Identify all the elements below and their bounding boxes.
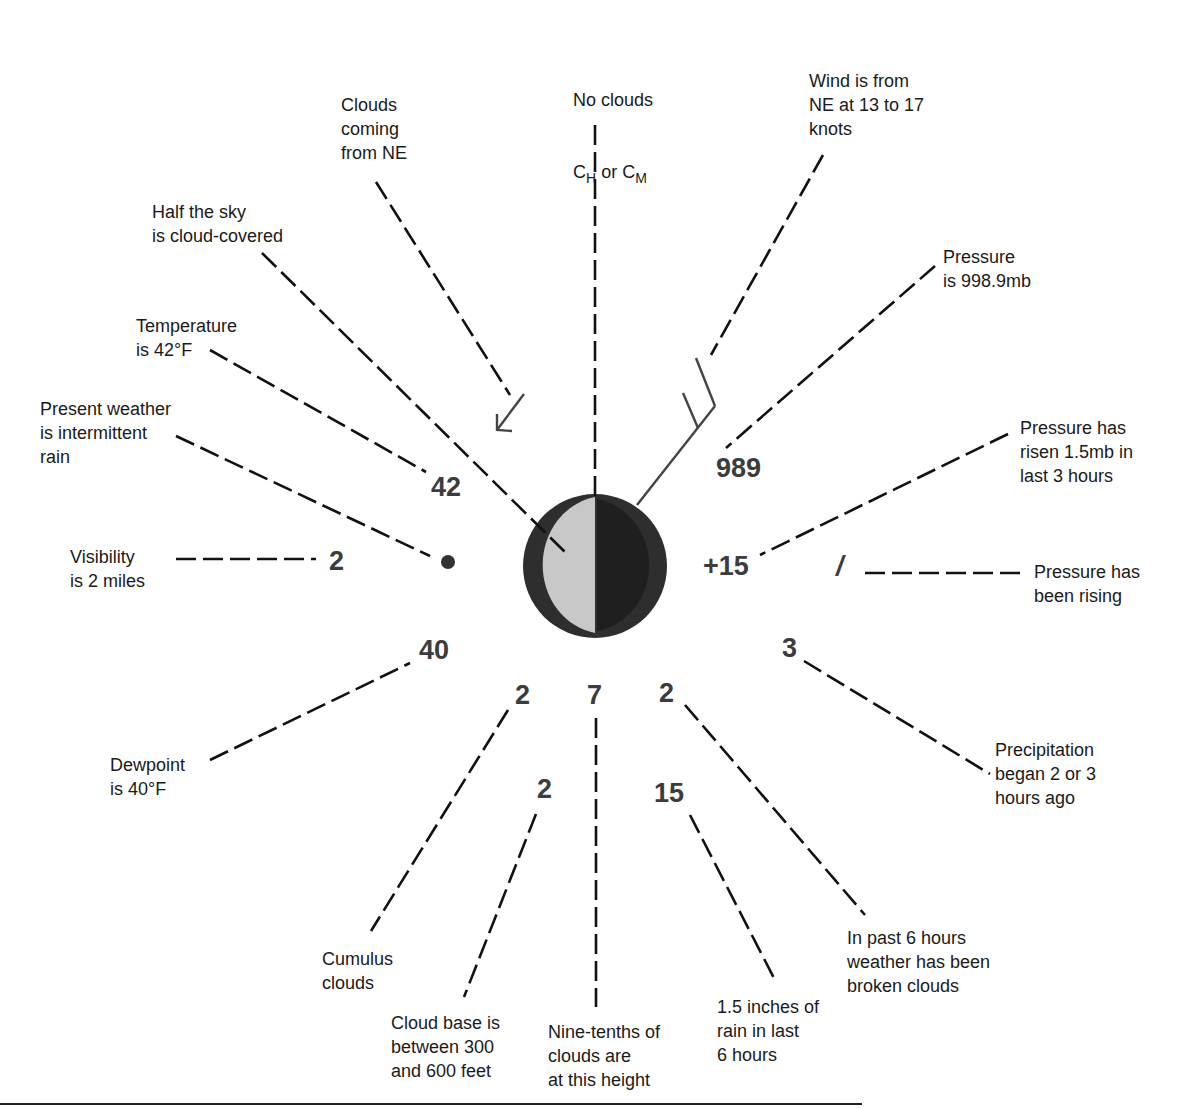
- label-pressure-risen: Pressure has risen 1.5mb in last 3 hours: [1020, 416, 1133, 488]
- c-high: C: [573, 162, 586, 182]
- no-clouds-line1: No clouds: [573, 88, 653, 112]
- leader-past-weather: [685, 705, 865, 915]
- no-clouds-line2: CH or CM: [573, 160, 653, 190]
- leader-precip-began: [804, 661, 990, 774]
- leader-rain-amount: [690, 815, 776, 982]
- value-cloud-amount: 7: [587, 680, 602, 710]
- leader-cloud-base: [464, 814, 536, 997]
- label-half-sky: Half the sky is cloud-covered: [152, 200, 283, 248]
- value-temperature: 42: [431, 472, 461, 502]
- leader-wind: [711, 155, 823, 355]
- label-precip-began: Precipitation began 2 or 3 hours ago: [995, 738, 1096, 810]
- label-present-weather: Present weather is intermittent rain: [40, 397, 171, 469]
- leader-temperature: [210, 350, 426, 472]
- leader-clouds-from: [376, 182, 510, 395]
- sub-h: H: [586, 170, 596, 186]
- wind-barb-icon: [637, 358, 715, 505]
- label-past-weather: In past 6 hours weather has been broken …: [847, 926, 990, 998]
- label-pressure-rising: Pressure has been rising: [1034, 560, 1140, 608]
- value-dewpoint: 40: [419, 635, 449, 665]
- label-cloud-base: Cloud base is between 300 and 600 feet: [391, 1011, 500, 1083]
- leader-pressure-risen: [760, 434, 1008, 555]
- leader-present-weather: [176, 436, 430, 556]
- label-no-clouds: No clouds CH or CM: [573, 40, 653, 214]
- or-text: or: [596, 162, 622, 182]
- leader-dewpoint: [210, 663, 410, 760]
- value-cloud-base: 2: [537, 774, 552, 804]
- leader-pressure: [726, 266, 935, 448]
- value-past-weather: 2: [659, 678, 674, 708]
- label-visibility: Visibility is 2 miles: [70, 545, 145, 593]
- label-rain-amount: 1.5 inches of rain in last 6 hours: [717, 995, 819, 1067]
- c-middle: C: [622, 162, 635, 182]
- value-pressure-change: +15: [703, 551, 749, 581]
- label-temperature: Temperature is 42°F: [136, 314, 237, 362]
- label-clouds-from: Clouds coming from NE: [341, 93, 407, 165]
- cloud-direction-arrow-icon: [497, 394, 524, 431]
- leader-cumulus: [371, 710, 508, 931]
- value-precip-began: 3: [782, 633, 797, 663]
- station-circle: [523, 494, 667, 638]
- label-nine-tenths: Nine-tenths of clouds are at this height: [548, 1020, 660, 1092]
- value-pressure-tendency: /: [836, 551, 844, 581]
- label-wind: Wind is from NE at 13 to 17 knots: [809, 69, 924, 141]
- rain-dot-icon: [441, 555, 455, 569]
- value-low-cloud-type: 2: [515, 680, 530, 710]
- value-visibility: 2: [329, 546, 344, 576]
- label-dewpoint: Dewpoint is 40°F: [110, 753, 185, 801]
- label-cumulus: Cumulus clouds: [322, 947, 393, 995]
- label-pressure: Pressure is 998.9mb: [943, 245, 1031, 293]
- value-precip-amount: 15: [654, 778, 684, 808]
- sub-m: M: [635, 170, 647, 186]
- value-pressure: 989: [716, 453, 761, 483]
